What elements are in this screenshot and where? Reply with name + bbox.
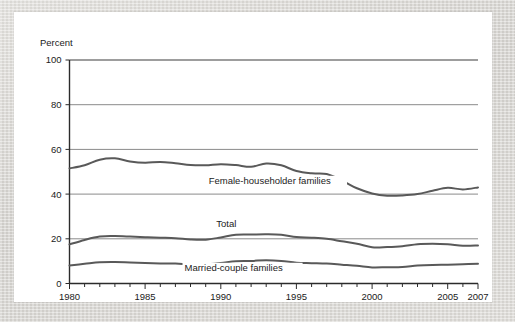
y-tick-label-80: 80	[51, 99, 62, 110]
x-tick-label-2000: 2000	[362, 291, 383, 302]
x-tick-label-1990: 1990	[210, 291, 231, 302]
gridlines	[66, 60, 479, 284]
series-line-1	[70, 234, 479, 247]
y-tick-label-100: 100	[46, 54, 62, 65]
y-tick-labels: 020406080100	[46, 54, 62, 289]
y-tick-label-40: 40	[51, 189, 62, 200]
chart-screenshot: Percent 020406080100 1980198519901995200…	[0, 0, 515, 322]
y-tick-label-20: 20	[51, 233, 62, 244]
y-tick-label-60: 60	[51, 144, 62, 155]
x-tick-label-1985: 1985	[135, 291, 156, 302]
x-tick-label-1980: 1980	[59, 291, 80, 302]
y-tick-label-0: 0	[56, 278, 61, 289]
y-axis-title-group: Percent	[40, 37, 73, 48]
x-tick-marks	[70, 284, 479, 290]
x-tick-label-2005: 2005	[437, 291, 458, 302]
y-axis-title: Percent	[40, 37, 73, 48]
series-label-2: Married-couple families	[185, 262, 283, 273]
chart-svg: Percent 020406080100 1980198519901995200…	[0, 0, 515, 322]
x-tick-label-2007: 2007	[467, 291, 488, 302]
x-tick-labels: 1980198519901995200020052007	[59, 291, 489, 302]
series-label-1: Total	[216, 218, 236, 229]
line-chart: Percent 020406080100 1980198519901995200…	[0, 0, 515, 322]
series-label-0: Female-householder families	[209, 175, 331, 186]
x-tick-label-1995: 1995	[286, 291, 307, 302]
